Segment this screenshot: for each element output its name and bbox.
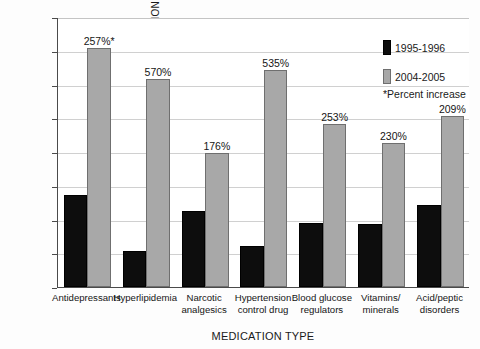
bar-group: 570% [117,79,176,287]
bar-2004-2005: 253% [323,124,347,287]
legend-swatch-light-icon [383,69,391,84]
bar-value-annotation: 176% [203,140,230,152]
bar-value-annotation: 257%* [84,35,115,47]
x-axis-title: MEDICATION TYPE [57,330,469,342]
bar-1995-1996 [182,211,206,287]
chart-legend: 1995-1996 2004-2005 *Percent increase [383,40,466,100]
bar-2004-2005: 257%* [87,48,111,287]
bar-1995-1996 [358,224,382,287]
bar-value-annotation: 253% [321,111,348,123]
legend-label-2004-2005: 2004-2005 [395,71,445,83]
bar-1995-1996 [64,195,88,287]
bar-2004-2005: 230% [382,143,406,287]
legend-label-1995-1996: 1995-1996 [395,42,445,54]
bar-2004-2005: 535% [264,70,288,287]
bar-group: 176% [176,153,235,287]
bar-2004-2005: 176% [205,153,229,287]
bar-1995-1996 [240,246,264,287]
bar-group: 535% [235,70,294,287]
bar-2004-2005: 209% [441,116,465,287]
bar-value-annotation: 230% [380,130,407,142]
legend-swatch-dark-icon [383,40,391,55]
bar-group: 253% [293,124,352,287]
bar-2004-2005: 570% [146,79,170,287]
bar-group: 209% [411,116,470,287]
legend-footnote: *Percent increase [383,88,466,100]
bar-group: 230% [352,143,411,287]
bar-value-annotation: 535% [262,57,289,69]
bar-value-annotation: 570% [145,66,172,78]
bar-value-annotation: 209% [439,103,466,115]
gridline-40 [58,18,469,19]
x-tick-label: Acid/pepticdisorders [404,292,475,315]
bar-1995-1996 [417,205,441,287]
legend-item-1995-1996: 1995-1996 [383,40,466,55]
bar-group: 257%* [58,48,117,287]
y-tick-mark-0 [52,288,57,289]
bar-1995-1996 [299,223,323,287]
bar-1995-1996 [123,251,147,287]
bar-chart-figure: VISITS WITH AT LEAST ONE DRUG PER 100 PO… [0,0,480,349]
legend-item-2004-2005: 2004-2005 [383,69,466,84]
